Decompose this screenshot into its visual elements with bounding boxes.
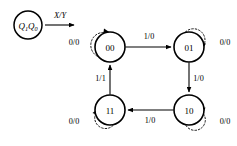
state-node-10-label: 10	[185, 106, 195, 116]
state-node-11-label: 11	[106, 106, 115, 116]
self-loop-10-label: 0/0	[220, 117, 230, 126]
state-nodes-group: 00 01 11 10	[95, 32, 204, 125]
self-loop-11-label: 0/0	[69, 117, 79, 126]
state-node-01-label: 01	[185, 43, 194, 53]
fsm-svg-root: Q1Q0 X/Y 0/0 0/0 0/0	[0, 0, 237, 146]
transition-10-to-11[interactable]: 1/0	[128, 110, 174, 125]
legend-group: Q1Q0 X/Y	[14, 11, 74, 39]
transition-11-to-00-label: 1/1	[95, 74, 105, 83]
legend-input-output-label: X/Y	[53, 11, 67, 20]
self-loop-01-label: 0/0	[220, 38, 230, 47]
state-node-00[interactable]: 00	[95, 32, 125, 62]
state-node-00-label: 00	[106, 43, 116, 53]
self-loop-00-label: 0/0	[69, 38, 79, 47]
transition-11-to-00[interactable]: 1/1	[95, 65, 110, 95]
transition-01-to-10-label: 1/0	[193, 74, 203, 83]
state-node-01[interactable]: 01	[174, 32, 204, 62]
transition-00-to-01[interactable]: 1/0	[126, 32, 172, 47]
state-diagram-canvas: Q1Q0 X/Y 0/0 0/0 0/0	[0, 0, 237, 146]
transition-00-to-01-label: 1/0	[144, 32, 154, 41]
transition-10-to-11-label: 1/0	[145, 116, 155, 125]
transition-01-to-10[interactable]: 1/0	[189, 63, 204, 93]
state-node-11[interactable]: 11	[95, 95, 125, 125]
state-node-10[interactable]: 10	[174, 95, 204, 125]
